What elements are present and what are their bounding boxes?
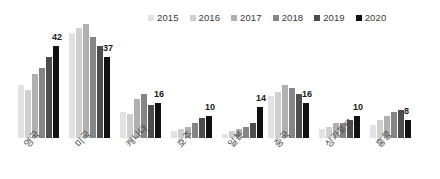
bar-group-캐나다: 16 bbox=[120, 0, 161, 138]
bar-미국-2020[interactable] bbox=[104, 57, 110, 138]
bar-중국-2015[interactable] bbox=[268, 96, 274, 138]
bar-group-싱가포르: 10 bbox=[319, 0, 360, 138]
value-label-싱가포르: 10 bbox=[353, 103, 363, 112]
value-label-홍콩: 8 bbox=[404, 107, 409, 116]
bar-영국-2015[interactable] bbox=[18, 85, 24, 138]
bar-group-중국: 16 bbox=[268, 0, 309, 138]
bar-캐나다-2020[interactable] bbox=[155, 103, 161, 138]
bar-group-홍콩: 8 bbox=[370, 0, 411, 138]
bar-캐나다-2019[interactable] bbox=[148, 105, 154, 138]
value-label-호주: 10 bbox=[205, 103, 215, 112]
bar-미국-2018[interactable] bbox=[90, 37, 96, 138]
bar-group-일본: 14 bbox=[222, 0, 263, 138]
bar-영국-2018[interactable] bbox=[39, 68, 45, 138]
bar-중국-2018[interactable] bbox=[289, 88, 295, 138]
bar-group-bars bbox=[222, 0, 263, 138]
value-label-일본: 14 bbox=[256, 94, 266, 103]
bar-group-bars bbox=[69, 0, 110, 138]
category-axis-labels: 영국미국캐나다호주일본중국싱가포르홍콩 bbox=[0, 138, 440, 179]
bar-홍콩-2020[interactable] bbox=[405, 120, 411, 138]
bar-일본-2019[interactable] bbox=[250, 123, 256, 138]
chart-plot-area: 423716101416108 bbox=[0, 0, 440, 138]
value-label-캐나다: 16 bbox=[154, 90, 164, 99]
bar-미국-2017[interactable] bbox=[83, 24, 89, 138]
bar-캐나다-2015[interactable] bbox=[120, 112, 126, 138]
bar-group-영국: 42 bbox=[18, 0, 59, 138]
bar-미국-2016[interactable] bbox=[76, 28, 82, 138]
bar-group-bars bbox=[370, 0, 411, 138]
bar-중국-2019[interactable] bbox=[296, 94, 302, 138]
bar-group-호주: 10 bbox=[171, 0, 212, 138]
bar-group-bars bbox=[18, 0, 59, 138]
bar-호주-2019[interactable] bbox=[199, 118, 205, 138]
bar-group-미국: 37 bbox=[69, 0, 110, 138]
bar-중국-2020[interactable] bbox=[303, 103, 309, 138]
bar-호주-2020[interactable] bbox=[206, 116, 212, 138]
bar-group-bars bbox=[319, 0, 360, 138]
bar-홍콩-2015[interactable] bbox=[370, 125, 376, 138]
bar-영국-2020[interactable] bbox=[53, 46, 59, 138]
bar-group-bars bbox=[268, 0, 309, 138]
bar-chart: 201520162017201820192020 423716101416108… bbox=[0, 0, 440, 179]
bar-미국-2019[interactable] bbox=[97, 46, 103, 138]
bar-싱가포르-2020[interactable] bbox=[354, 116, 360, 138]
value-label-영국: 42 bbox=[52, 33, 62, 42]
value-label-미국: 37 bbox=[103, 44, 113, 53]
bar-group-bars bbox=[120, 0, 161, 138]
value-label-중국: 16 bbox=[302, 90, 312, 99]
bar-미국-2015[interactable] bbox=[69, 33, 75, 138]
bar-싱가포르-2015[interactable] bbox=[319, 129, 325, 138]
bar-일본-2020[interactable] bbox=[257, 107, 263, 138]
bar-영국-2019[interactable] bbox=[46, 57, 52, 138]
bar-group-bars bbox=[171, 0, 212, 138]
